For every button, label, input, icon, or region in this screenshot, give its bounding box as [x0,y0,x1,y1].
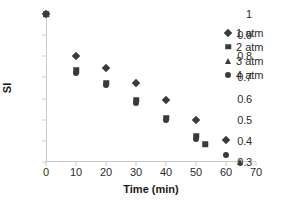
scatter-chart-figure: 0.30.40.50.60.70.80.91 010203040506070 S… [0,0,302,205]
circle-marker-icon [225,72,231,78]
legend-swatch [222,40,234,53]
y-axis-tick-mark [42,77,46,78]
legend-item-3-atm[interactable]: 3 atm [222,54,296,67]
y-axis-tick-label: 0.5 [237,114,252,126]
y-axis-tick-mark [42,35,46,36]
legend-item-label: 3 atm [234,55,264,67]
legend-item-4-atm[interactable]: 4 atm [222,68,296,81]
diamond-marker-icon [224,28,232,36]
legend-item-label: 4 atm [234,69,264,81]
y-axis-tick-mark [42,119,46,120]
square-marker-icon [225,44,231,50]
legend-swatch [222,68,234,81]
y-axis-tick-label: 0.4 [237,135,252,147]
legend-item-label: 1 atm [234,27,264,39]
x-axis-tick-label: 70 [250,166,262,178]
x-axis-tick-label: 20 [100,166,112,178]
x-axis-tick-mark [76,162,77,166]
legend-item-2-atm[interactable]: 2 atm [222,40,296,53]
legend-item-label: 2 atm [234,41,264,53]
y-axis-tick-label: 1 [246,8,252,20]
y-axis-tick-mark [42,56,46,57]
y-axis-title: SI [1,83,13,93]
x-axis-tick-label: 60 [220,166,232,178]
x-axis-tick-mark [136,162,137,166]
x-axis-tick-mark [256,162,257,166]
legend-swatch [222,26,234,39]
x-axis-tick-mark [166,162,167,166]
x-axis-tick-mark [46,162,47,166]
y-axis-tick-mark [42,98,46,99]
y-axis-tick-mark [42,14,46,15]
legend-item-1-atm[interactable]: 1 atm [222,26,296,39]
x-axis-tick-label: 50 [190,166,202,178]
x-axis-tick-mark [106,162,107,166]
x-axis-tick-label: 40 [160,166,172,178]
chart-legend: 1 atm2 atm3 atm4 atm [222,26,296,82]
x-axis-tick-mark [196,162,197,166]
x-axis-title: Time (min) [123,183,178,195]
legend-swatch [222,54,234,67]
triangle-marker-icon [225,58,231,64]
x-axis-tick-label: 10 [70,166,82,178]
x-axis-tick-mark [226,162,227,166]
x-axis-tick-label: 30 [130,166,142,178]
y-axis-tick-label: 0.6 [237,93,252,105]
x-axis-tick-label: 0 [43,166,49,178]
y-axis-tick-mark [42,140,46,141]
